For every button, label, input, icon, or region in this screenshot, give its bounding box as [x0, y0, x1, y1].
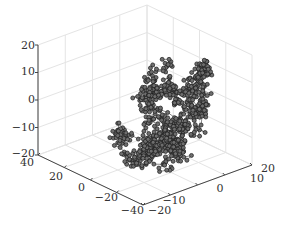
- data-point: [131, 96, 135, 100]
- data-point: [147, 118, 151, 122]
- y-tick-label: 40: [20, 156, 34, 169]
- data-point: [196, 75, 200, 79]
- data-point: [153, 95, 157, 99]
- data-point: [147, 102, 151, 106]
- data-point: [124, 131, 128, 135]
- data-point: [161, 69, 165, 73]
- data-point: [151, 80, 155, 84]
- data-point: [165, 136, 169, 140]
- z-tick-label: −10: [12, 121, 35, 134]
- data-point: [130, 131, 134, 135]
- data-point: [187, 91, 191, 95]
- data-point: [205, 82, 209, 86]
- y-tick-label: −20: [95, 191, 118, 204]
- data-point: [173, 101, 177, 105]
- data-point: [178, 119, 182, 123]
- data-point: [209, 92, 213, 96]
- data-point: [116, 129, 120, 133]
- data-point: [164, 149, 168, 153]
- data-point: [206, 67, 210, 71]
- data-point: [172, 127, 176, 131]
- data-point: [169, 154, 173, 158]
- data-point: [165, 132, 169, 136]
- data-point: [198, 134, 202, 138]
- data-point: [153, 109, 157, 113]
- data-point: [154, 67, 158, 71]
- data-point: [133, 155, 137, 159]
- data-point: [182, 78, 186, 82]
- data-point: [147, 93, 151, 97]
- data-point: [156, 122, 160, 126]
- data-point: [160, 143, 164, 147]
- data-point: [204, 115, 208, 119]
- data-point: [138, 103, 142, 107]
- data-point: [144, 107, 148, 111]
- z-tick-label: 20: [21, 39, 35, 52]
- data-point: [192, 118, 196, 122]
- data-point: [171, 85, 175, 89]
- x-tick-label: 0: [217, 182, 224, 195]
- data-point: [178, 149, 182, 153]
- data-point: [167, 57, 171, 61]
- y-tick-label: −40: [121, 204, 144, 217]
- data-point: [189, 153, 193, 157]
- data-point: [199, 80, 203, 84]
- data-point: [125, 151, 129, 155]
- data-point: [116, 134, 120, 138]
- data-point: [189, 132, 193, 136]
- data-point: [166, 80, 170, 84]
- data-point: [178, 89, 182, 93]
- data-point: [147, 132, 151, 136]
- data-point: [142, 129, 146, 133]
- data-point: [112, 143, 116, 147]
- data-point: [160, 137, 164, 141]
- data-point: [141, 156, 145, 160]
- data-point: [111, 129, 115, 133]
- data-point: [182, 112, 186, 116]
- data-point: [183, 122, 187, 126]
- data-point: [141, 133, 145, 137]
- data-point: [176, 100, 180, 104]
- data-point: [118, 146, 122, 150]
- data-point: [108, 136, 112, 140]
- data-point: [164, 93, 168, 97]
- data-point: [161, 78, 165, 82]
- data-point: [203, 130, 207, 134]
- data-point: [201, 97, 205, 101]
- data-point: [190, 79, 194, 83]
- data-point: [202, 75, 206, 79]
- data-point: [173, 132, 177, 136]
- data-point: [185, 158, 189, 162]
- data-point: [153, 149, 157, 153]
- tick-labels: 20 10 0 −10 −20 40 20 0 −20 −40 −20 −10 …: [12, 39, 275, 217]
- data-point: [146, 78, 150, 82]
- data-point: [118, 138, 122, 142]
- data-point: [191, 108, 195, 112]
- data-point: [163, 155, 167, 159]
- scatter3d-plot: 20 10 0 −10 −20 40 20 0 −20 −40 −20 −10 …: [0, 0, 306, 226]
- data-point: [182, 155, 186, 159]
- data-point: [190, 103, 194, 107]
- data-point: [186, 127, 190, 131]
- data-point: [160, 113, 164, 117]
- data-point: [126, 137, 130, 141]
- data-point: [181, 142, 185, 146]
- data-point: [148, 66, 152, 70]
- data-point: [143, 144, 147, 148]
- data-point: [201, 63, 205, 67]
- data-point: [180, 134, 184, 138]
- data-point: [191, 98, 195, 102]
- data-point: [202, 108, 206, 112]
- data-point: [179, 159, 183, 163]
- data-point: [146, 137, 150, 141]
- data-point: [162, 83, 166, 87]
- data-point: [172, 140, 176, 144]
- data-point: [124, 143, 128, 147]
- x-tick-label: 20: [261, 162, 275, 175]
- data-point: [194, 86, 198, 90]
- data-point: [166, 110, 170, 114]
- data-point: [163, 128, 167, 132]
- data-point: [197, 90, 201, 94]
- grid-lines: [38, 5, 252, 205]
- data-point: [132, 149, 136, 153]
